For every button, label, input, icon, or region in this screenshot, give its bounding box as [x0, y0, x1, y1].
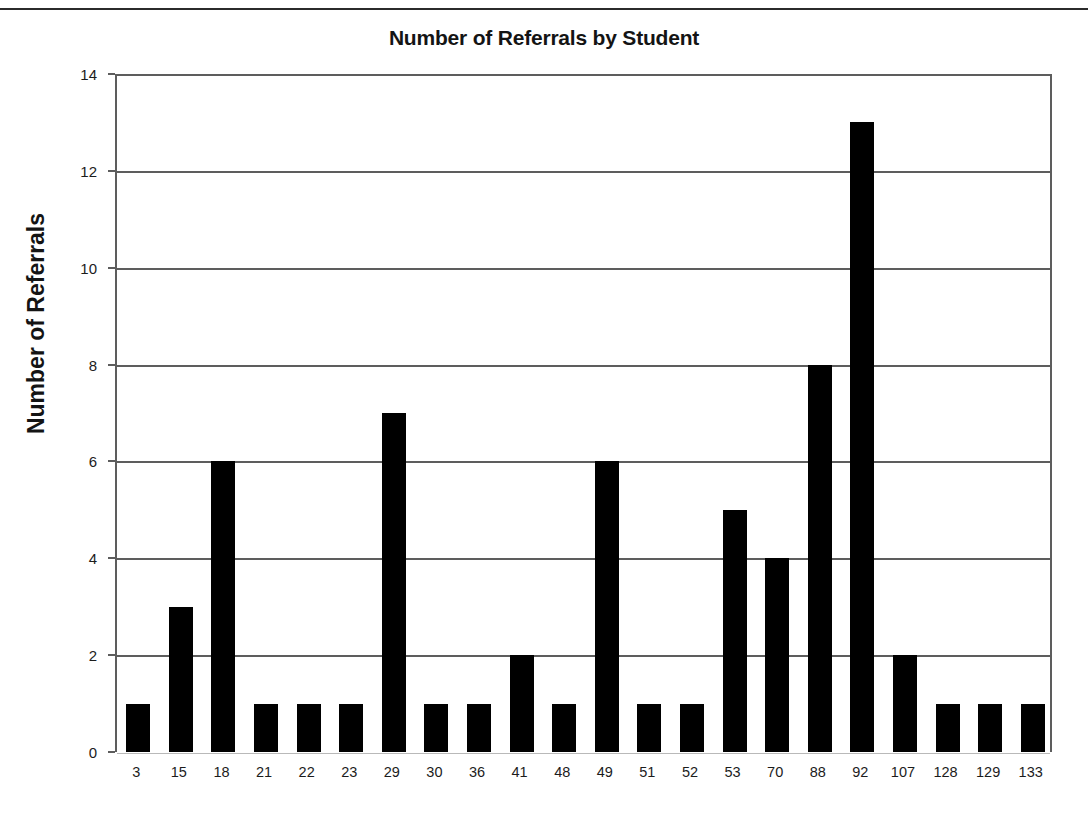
y-axis-tick-mark: [108, 73, 115, 75]
gridline: [117, 753, 1050, 754]
bar: [467, 704, 491, 752]
y-axis-tick-group: 02468101214: [0, 74, 115, 752]
plot-area: [115, 74, 1052, 752]
bar: [723, 510, 747, 752]
bar: [808, 365, 832, 752]
bar: [1021, 704, 1045, 752]
y-axis-tick-label: 14: [80, 66, 97, 83]
x-axis-tick-label: 22: [299, 764, 315, 780]
y-axis-tick-mark: [108, 364, 115, 366]
bar: [382, 413, 406, 752]
y-axis-tick-mark: [108, 267, 115, 269]
x-axis-tick-label: 53: [724, 764, 740, 780]
bar: [211, 461, 235, 752]
bar: [978, 704, 1002, 752]
x-axis-tick-label: 23: [341, 764, 357, 780]
bar: [254, 704, 278, 752]
x-axis-tick-label: 129: [976, 764, 1000, 780]
y-axis-tick-mark: [108, 751, 115, 753]
y-axis-tick-label: 0: [89, 744, 97, 761]
y-axis-tick-label: 6: [89, 453, 97, 470]
bar: [936, 704, 960, 752]
bar: [510, 655, 534, 752]
page-divider-rule: [0, 8, 1088, 10]
x-axis-tick-label: 18: [213, 764, 229, 780]
chart-title: Number of Referrals by Student: [0, 26, 1088, 50]
x-axis-tick-group: 3151821222329303641484951525370889210712…: [115, 758, 1052, 792]
bar: [893, 655, 917, 752]
x-axis-tick-label: 70: [767, 764, 783, 780]
y-axis-tick-label: 4: [89, 550, 97, 567]
y-axis-tick-label: 2: [89, 647, 97, 664]
bar: [339, 704, 363, 752]
x-axis-tick-label: 3: [132, 764, 140, 780]
x-axis-tick-label: 49: [597, 764, 613, 780]
bar: [637, 704, 661, 752]
y-axis-tick-mark: [108, 170, 115, 172]
y-axis-tick-mark: [108, 460, 115, 462]
bar: [552, 704, 576, 752]
bar: [595, 461, 619, 752]
x-axis-tick-label: 15: [171, 764, 187, 780]
x-axis-tick-label: 21: [256, 764, 272, 780]
x-axis-tick-label: 51: [639, 764, 655, 780]
y-axis-tick-label: 10: [80, 259, 97, 276]
y-axis-tick-label: 12: [80, 162, 97, 179]
x-axis-tick-label: 88: [810, 764, 826, 780]
x-axis-tick-label: 29: [384, 764, 400, 780]
x-axis-tick-label: 133: [1019, 764, 1043, 780]
x-axis-tick-label: 52: [682, 764, 698, 780]
y-axis-tick-label: 8: [89, 356, 97, 373]
y-axis-tick-mark: [108, 654, 115, 656]
x-axis-tick-label: 92: [852, 764, 868, 780]
bar: [424, 704, 448, 752]
bar: [680, 704, 704, 752]
bar: [765, 558, 789, 752]
x-axis-tick-label: 128: [933, 764, 957, 780]
x-axis-tick-label: 36: [469, 764, 485, 780]
bar: [297, 704, 321, 752]
x-axis-tick-label: 30: [426, 764, 442, 780]
x-axis-tick-label: 41: [512, 764, 528, 780]
bar: [850, 122, 874, 752]
x-axis-tick-label: 107: [891, 764, 915, 780]
bar: [126, 704, 150, 752]
x-axis-tick-label: 48: [554, 764, 570, 780]
bar: [169, 607, 193, 752]
bar-group: [117, 76, 1050, 752]
y-axis-tick-mark: [108, 557, 115, 559]
chart-page: Number of Referrals by Student Number of…: [0, 0, 1088, 827]
